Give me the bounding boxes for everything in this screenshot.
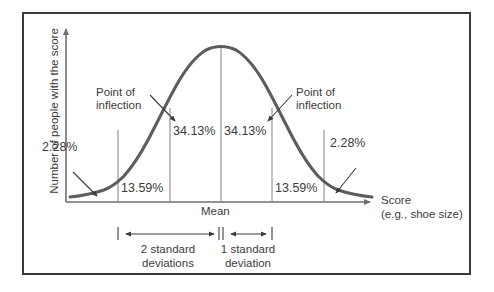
label-one-standard-deviation: 1 standard deviation — [208, 243, 288, 270]
sigma-divider-lines — [118, 48, 324, 202]
percent-label-far-right: 2.28% — [330, 136, 365, 150]
annotation-inflection-left: Point of inflection — [96, 86, 141, 112]
annotation-inflection-right: Point of inflection — [296, 86, 341, 112]
two-sd-line1: 2 standard — [128, 243, 208, 257]
percent-label-far-left: 2.28% — [42, 140, 77, 154]
one-sd-line1: 1 standard — [208, 243, 288, 257]
x-axis-subtitle: (e.g., shoe size) — [381, 208, 463, 221]
leader-pct-far-right — [336, 168, 356, 193]
percent-label-left-outer: 13.59% — [121, 181, 163, 195]
mean-label: Mean — [201, 205, 230, 218]
two-sd-line2: deviations — [128, 257, 208, 271]
y-axis-title: Number of people with the score — [48, 11, 60, 211]
percent-label-right-inner: 34.13% — [224, 124, 266, 138]
bracket-one-standard-deviation — [223, 227, 272, 240]
annotation-inflection-left-line2: inflection — [96, 99, 141, 112]
leader-pct-far-left — [73, 172, 97, 196]
annotation-inflection-left-line1: Point of — [96, 86, 141, 99]
label-two-standard-deviations: 2 standard deviations — [128, 243, 208, 270]
leader-inflection-left — [150, 95, 175, 121]
annotation-inflection-right-line2: inflection — [296, 99, 341, 112]
percent-label-right-outer: 13.59% — [275, 181, 317, 195]
one-sd-line2: deviation — [208, 257, 288, 271]
percent-label-left-inner: 34.13% — [173, 124, 215, 138]
x-axis-title: Score — [381, 194, 411, 207]
annotation-inflection-right-line1: Point of — [296, 86, 341, 99]
figure-canvas: Number of people with the score 2.28% 13… — [0, 0, 494, 292]
bracket-two-standard-deviations — [118, 227, 219, 240]
